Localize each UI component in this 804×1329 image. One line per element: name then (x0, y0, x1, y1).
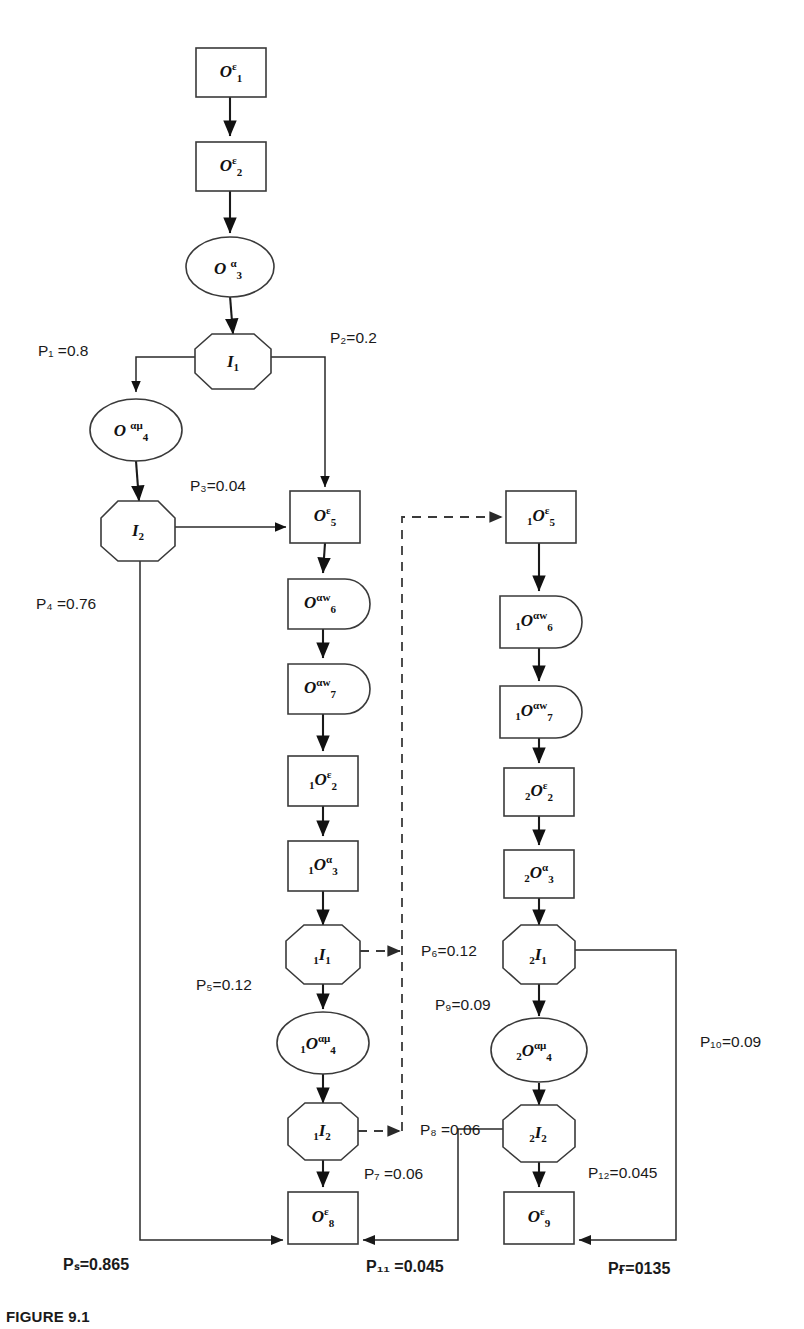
node-O7[interactable]: Oαw7 (288, 664, 370, 714)
node-1O4[interactable]: 1Oαμ4 (277, 1012, 369, 1074)
edge-O4-I2 (136, 461, 139, 501)
node-I1[interactable]: I1 (195, 334, 271, 389)
probability-labels-layer: P₁ =0.8 P₂=0.2 P₃=0.04 P₄ =0.76 P₅=0.12 … (36, 329, 761, 1277)
edge-2I1-O9 (575, 950, 676, 1240)
prob-label-P2: P₂=0.2 (330, 329, 377, 346)
prob-label-P10: P₁₀=0.09 (700, 1033, 761, 1050)
node-1O7[interactable]: 1Oαw7 (500, 686, 582, 738)
edge-O5-O6 (323, 543, 325, 573)
edge-2I2-O8 (363, 1129, 503, 1240)
prob-label-P9: P₉=0.09 (435, 996, 491, 1013)
node-O9[interactable]: Oε9 (504, 1192, 574, 1244)
prob-label-P12: P₁₂=0.045 (588, 1164, 657, 1181)
prob-label-P8: P₈ =0.06 (420, 1121, 480, 1138)
node-1I2[interactable]: 1I2 (288, 1103, 358, 1160)
node-2I1[interactable]: 2I1 (503, 925, 575, 984)
node-O3[interactable]: O α3 (186, 237, 274, 297)
prob-label-P1: P₁ =0.8 (38, 342, 88, 359)
prob-label-P3: P₃=0.04 (190, 477, 246, 494)
prob-label-P6: P₆=0.12 (421, 942, 477, 959)
node-1O5[interactable]: 1Oε5 (506, 491, 576, 543)
prob-label-P5: P₅=0.12 (196, 976, 252, 993)
node-2O4[interactable]: 2Oαμ4 (491, 1018, 587, 1082)
node-2O3[interactable]: 2Oα3 (504, 850, 574, 898)
prob-label-PF: Pғ=0135 (608, 1260, 670, 1277)
edge-I1-O4 (136, 357, 201, 392)
node-O1[interactable]: Oε1 (196, 48, 266, 97)
node-I2[interactable]: I2 (101, 501, 175, 561)
node-O8[interactable]: Oε8 (288, 1192, 358, 1244)
prob-label-P7: P₇ =0.06 (364, 1165, 423, 1182)
node-2O2[interactable]: 2Oε2 (504, 768, 574, 816)
node-2I2[interactable]: 2I2 (503, 1105, 575, 1162)
node-1O6[interactable]: 1Oαw6 (500, 596, 582, 648)
nodes-layer: Oε1 Oε2 O α3 I1 (90, 48, 587, 1244)
flow-diagram-canvas: Oε1 Oε2 O α3 I1 (0, 0, 804, 1329)
node-1O3[interactable]: 1Oα3 (288, 841, 358, 891)
prob-label-P4: P₄ =0.76 (36, 595, 96, 612)
edge-I1-O5 (271, 357, 325, 487)
edge-dashed-trunk (402, 517, 502, 1131)
node-1I1[interactable]: 1I1 (286, 925, 360, 984)
node-1O2[interactable]: 1Oε2 (288, 756, 358, 806)
prob-label-PS: Pₛ=0.865 (63, 1256, 129, 1273)
node-O4[interactable]: O αμ4 (90, 399, 182, 461)
node-O2[interactable]: Oε2 (196, 142, 266, 191)
edge-O3-I1 (230, 296, 233, 334)
node-O6[interactable]: Oαw6 (288, 579, 370, 629)
figure-caption: FIGURE 9.1 (6, 1308, 90, 1325)
edge-I2-O8 (140, 561, 283, 1240)
node-O5[interactable]: Oε5 (290, 491, 360, 543)
prob-label-P11: P₁₁ =0.045 (366, 1258, 444, 1275)
figure-root: Oε1 Oε2 O α3 I1 (0, 0, 804, 1329)
